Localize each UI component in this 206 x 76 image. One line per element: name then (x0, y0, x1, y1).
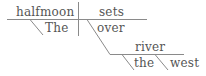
word-preposition: over (97, 21, 125, 35)
object-modifier-line-1 (122, 55, 134, 71)
diagram-canvas: halfmoon The sets over river the west (0, 0, 206, 76)
subject-modifier-line (30, 20, 43, 36)
object-modifier-line-2 (155, 55, 168, 71)
word-subject: halfmoon (16, 5, 74, 19)
word-object: river (135, 40, 165, 54)
word-object-modifier-1: the (134, 56, 154, 70)
word-subject-modifier: The (45, 21, 68, 35)
sentence-diagram: halfmoon The sets over river the west (0, 0, 206, 76)
word-verb: sets (99, 5, 124, 19)
word-object-modifier-2: west (170, 56, 199, 70)
